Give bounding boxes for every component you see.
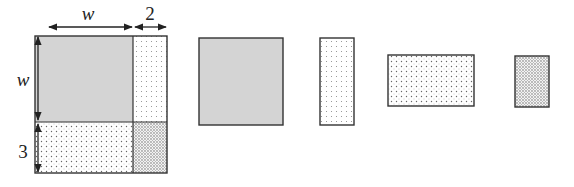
label-left-3: 3: [18, 141, 28, 162]
separate-piece-2-by-3: [515, 56, 549, 107]
area-model-diagram: w 2 w 3: [0, 0, 574, 187]
piece-2-by-3: [133, 122, 167, 173]
piece-w-by-3: [35, 122, 133, 173]
piece-w-by-w: [35, 36, 133, 122]
separate-piece-w-by-w: [199, 38, 283, 125]
label-top-w: w: [82, 3, 95, 24]
label-top-2: 2: [145, 3, 155, 24]
separate-piece-2-by-w: [320, 38, 354, 125]
label-left-w: w: [17, 69, 30, 90]
piece-2-by-w: [133, 36, 167, 122]
composite-square: [35, 36, 167, 173]
separate-piece-w-by-3: [388, 55, 474, 106]
